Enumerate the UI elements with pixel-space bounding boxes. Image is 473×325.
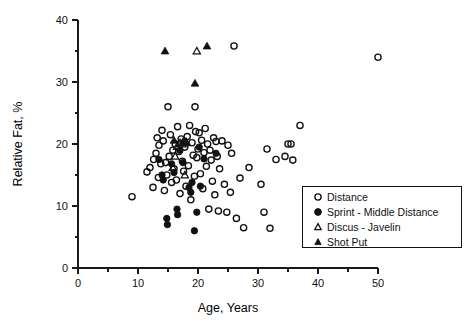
legend: Distance Sprint - Middle Distance Discus…	[302, 186, 462, 248]
point-filled-circle	[174, 211, 180, 217]
point-open-circle	[159, 127, 165, 133]
legend-item-discus-javelin: Discus - Javelin	[311, 220, 461, 234]
point-open-circle	[224, 209, 230, 215]
point-open-circle	[153, 150, 159, 156]
y-tick-label: 20	[56, 138, 68, 150]
point-filled-circle	[191, 228, 197, 234]
point-open-circle	[231, 43, 237, 49]
x-tick-label: 10	[132, 277, 144, 289]
point-filled-circle	[160, 177, 166, 183]
point-open-circle	[219, 138, 225, 144]
y-tick-label: 40	[56, 14, 68, 26]
y-axis-title: Relative Fat, %	[11, 102, 25, 187]
point-open-circle	[264, 146, 270, 152]
point-open-circle	[150, 184, 156, 190]
point-open-circle	[225, 142, 231, 148]
point-open-circle	[221, 181, 227, 187]
point-open-circle	[267, 225, 273, 231]
point-open-circle	[237, 175, 243, 181]
legend-item-shot-put: Shot Put	[311, 235, 461, 249]
open-circle-icon	[311, 191, 325, 203]
series-discus-javelin	[169, 47, 200, 177]
point-filled-circle	[156, 156, 162, 162]
point-filled-triangle	[191, 79, 199, 86]
legend-item-distance: Distance	[311, 190, 461, 204]
point-open-circle	[202, 125, 208, 131]
point-filled-circle	[194, 209, 200, 215]
point-open-circle	[375, 54, 381, 60]
point-open-circle	[191, 173, 197, 179]
point-open-circle	[167, 132, 173, 138]
point-open-circle	[233, 215, 239, 221]
point-filled-circle	[213, 150, 219, 156]
point-open-circle	[282, 153, 288, 159]
open-triangle-icon	[311, 221, 325, 233]
point-open-circle	[201, 150, 207, 156]
plot-canvas: 01020304050010203040 Age, Years Relative…	[0, 0, 473, 325]
point-open-circle	[192, 104, 198, 110]
point-filled-circle	[196, 144, 202, 150]
point-open-circle	[197, 171, 203, 177]
point-open-circle	[241, 225, 247, 231]
point-filled-circle	[189, 179, 195, 185]
point-open-circle	[207, 147, 213, 153]
y-tick-label: 10	[56, 200, 68, 212]
scatter-plot-figure: 01020304050010203040 Age, Years Relative…	[0, 0, 473, 325]
point-open-circle	[246, 164, 252, 170]
x-axis-title: Age, Years	[198, 301, 258, 315]
x-tick-label: 30	[252, 277, 264, 289]
point-filled-circle	[164, 221, 170, 227]
filled-circle-icon	[311, 206, 325, 218]
point-open-circle	[258, 181, 264, 187]
point-open-triangle	[193, 47, 200, 53]
filled-triangle-icon	[311, 236, 325, 248]
point-filled-triangle	[203, 42, 211, 49]
point-open-circle	[154, 135, 160, 141]
legend-label-shot-put: Shot Put	[327, 236, 367, 248]
point-open-circle	[161, 187, 167, 193]
legend-label-discus-javelin: Discus - Javelin	[327, 221, 401, 233]
point-open-circle	[199, 137, 205, 143]
point-filled-circle	[197, 183, 203, 189]
point-open-circle	[215, 208, 221, 214]
point-filled-circle	[164, 215, 170, 221]
point-open-circle	[129, 194, 135, 200]
point-open-circle	[175, 124, 181, 130]
point-open-circle	[212, 192, 218, 198]
x-tick-label: 50	[372, 277, 384, 289]
point-open-circle	[261, 209, 267, 215]
point-open-circle	[273, 156, 279, 162]
x-tick-label: 20	[192, 277, 204, 289]
y-tick-label: 0	[62, 262, 68, 274]
point-open-circle	[217, 166, 223, 172]
point-open-circle	[297, 122, 303, 128]
point-open-circle	[203, 163, 209, 169]
point-open-circle	[208, 157, 214, 163]
legend-label-distance: Distance	[327, 191, 368, 203]
point-open-circle	[165, 104, 171, 110]
legend-item-sprint-middle-distance: Sprint - Middle Distance	[311, 205, 461, 219]
point-open-circle	[206, 206, 212, 212]
point-filled-circle	[180, 159, 186, 165]
legend-label-sprint-middle-distance: Sprint - Middle Distance	[327, 206, 438, 218]
y-tick-label: 30	[56, 76, 68, 88]
point-open-circle	[290, 157, 296, 163]
point-filled-circle	[188, 189, 194, 195]
point-open-circle	[177, 191, 183, 197]
point-filled-circle	[201, 156, 207, 162]
point-open-circle	[227, 189, 233, 195]
point-open-circle	[187, 122, 193, 128]
x-tick-label: 40	[312, 277, 324, 289]
point-open-circle	[188, 197, 194, 203]
point-open-circle	[160, 138, 166, 144]
x-tick-label: 0	[75, 277, 81, 289]
point-open-circle	[229, 150, 235, 156]
point-filled-triangle	[161, 47, 169, 54]
point-open-circle	[209, 178, 215, 184]
point-open-circle	[205, 141, 211, 147]
